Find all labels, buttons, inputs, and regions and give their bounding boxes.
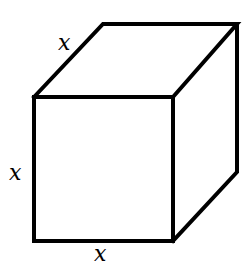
cube-front-face — [34, 97, 173, 241]
top-edge-label: x — [58, 30, 71, 55]
cube-right-face — [173, 24, 237, 241]
left-edge-label: x — [9, 160, 22, 185]
cube-diagram: x x x — [0, 0, 251, 272]
bottom-edge-label: x — [94, 241, 107, 266]
